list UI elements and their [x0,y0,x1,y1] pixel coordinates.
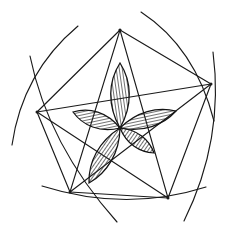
pentagram-flower-diagram [0,0,232,237]
figure-canvas [0,0,232,237]
vertex-bottom-right [167,197,170,200]
vertex-bottom-left [69,191,72,194]
vertex-left [36,111,39,114]
center-point [118,126,122,130]
vertex-top [118,28,121,31]
vertex-right [210,83,213,86]
